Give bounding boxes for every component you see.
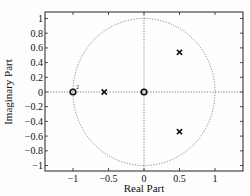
y-axis-label: Imaginary Part <box>2 59 14 125</box>
y-tick-label: −0.8 <box>25 145 43 156</box>
y-tick-label: 0.8 <box>31 28 44 39</box>
x-tick-label: 0.5 <box>173 173 186 184</box>
x-tick-label: 1 <box>213 173 218 184</box>
multiplicity-annotation: 2 <box>76 84 79 90</box>
y-tick-label: 0.2 <box>31 72 44 83</box>
y-tick-label: −0.6 <box>25 131 43 142</box>
pole-zero-plot: −1−0.500.5110.80.60.40.20−0.2−0.4−0.6−0.… <box>0 0 250 196</box>
y-tick-label: 1 <box>38 13 43 24</box>
y-tick-label: −1 <box>32 160 43 171</box>
y-tick-label: −0.2 <box>25 101 43 112</box>
x-tick-label: −0.5 <box>99 173 117 184</box>
x-tick-label: −1 <box>68 173 79 184</box>
y-tick-label: 0.4 <box>31 57 44 68</box>
y-tick-label: −0.4 <box>25 116 43 127</box>
y-tick-label: 0 <box>38 87 43 98</box>
y-tick-label: 0.6 <box>31 42 44 53</box>
x-axis-label: Real Part <box>124 182 165 194</box>
